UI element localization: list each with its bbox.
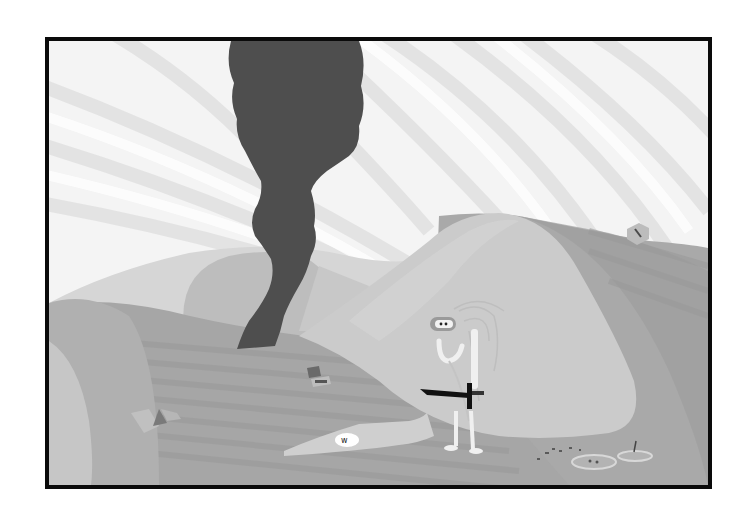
game-scene[interactable]: w [49,41,708,485]
ground-glyph: w [341,436,348,445]
hero-arm-right [471,329,478,389]
hero-foot-left [444,445,458,451]
hero-eye-left [440,323,443,326]
hero-leg-right [471,411,473,449]
hero-eyes-band [435,320,453,328]
game-viewport[interactable]: w [45,37,712,489]
hero-foot-right [469,448,483,454]
puddle-left [572,455,616,469]
hero-eye-right [445,323,448,326]
